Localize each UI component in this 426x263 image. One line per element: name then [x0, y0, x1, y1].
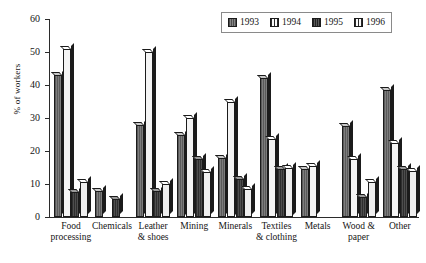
x-label-line2: processing — [36, 232, 106, 243]
bar-cap — [150, 188, 161, 191]
x-label-line2: paper — [324, 232, 394, 243]
bar-cap — [77, 179, 88, 182]
bar-cap — [224, 99, 235, 102]
y-tick — [45, 19, 49, 20]
bar — [350, 159, 358, 217]
bar-face — [383, 90, 391, 217]
y-tick — [45, 118, 49, 119]
bar-side — [170, 178, 173, 214]
bar — [153, 191, 161, 217]
bar — [71, 192, 79, 217]
bar-face — [400, 169, 408, 217]
bar-face — [80, 182, 88, 217]
bar — [285, 168, 293, 218]
bar-cap — [183, 115, 194, 118]
bar-face — [309, 166, 317, 217]
series-1993-swatch — [228, 18, 237, 27]
bar-group — [342, 19, 376, 217]
bar-side — [211, 166, 214, 214]
chart-legend: 1993 1994 1995 1996 — [221, 12, 392, 33]
bar-face — [359, 197, 367, 217]
bar-cap — [68, 189, 79, 192]
bar-cap — [174, 132, 185, 135]
bar — [195, 159, 203, 217]
bar-group — [301, 19, 335, 217]
series-1996-swatch — [354, 18, 363, 27]
y-axis-line — [49, 19, 50, 218]
bar — [186, 118, 194, 217]
bar — [400, 169, 408, 217]
bar-group — [383, 19, 417, 217]
legend-item-1993: 1993 — [228, 18, 259, 28]
bar-face — [186, 118, 194, 217]
x-label-line2: & clothing — [242, 232, 312, 243]
bar-face — [350, 159, 358, 217]
bar — [80, 182, 88, 217]
bar — [359, 197, 367, 217]
bar-face — [153, 191, 161, 217]
bar-face — [260, 78, 268, 217]
bar-cap — [339, 123, 350, 126]
bar-face — [145, 52, 153, 217]
bar-face — [71, 192, 79, 217]
bar — [383, 90, 391, 217]
bar — [260, 78, 268, 217]
bar-face — [285, 168, 293, 218]
bar — [218, 158, 226, 217]
bar — [301, 169, 309, 217]
bar-face — [95, 191, 103, 217]
bar-side — [376, 176, 379, 214]
bar-group — [177, 19, 211, 217]
bar-face — [136, 125, 144, 217]
bar-face — [162, 184, 170, 217]
bar-cap — [298, 166, 309, 169]
bar-face — [301, 169, 309, 217]
legend-item-1996: 1996 — [354, 18, 385, 28]
bar-cap — [142, 49, 153, 52]
bar-face — [277, 169, 285, 217]
bar-cap — [365, 179, 376, 182]
bar-face — [236, 179, 244, 217]
bar — [203, 172, 211, 217]
bar-cap — [92, 188, 103, 191]
bar — [162, 184, 170, 217]
bar-face — [391, 143, 399, 217]
legend-label-1993: 1993 — [240, 18, 259, 28]
bar-side — [317, 160, 320, 214]
bar-face — [268, 139, 276, 217]
bar-side — [252, 183, 255, 214]
bar-side — [417, 165, 420, 214]
series-1994-swatch — [270, 18, 279, 27]
bar-cap — [282, 165, 293, 168]
bar-cap — [257, 75, 268, 78]
y-tick-label: 40 — [12, 80, 40, 90]
bar-face — [195, 159, 203, 217]
bar-side — [120, 193, 123, 214]
legend-label-1996: 1996 — [366, 18, 385, 28]
bar-group — [136, 19, 170, 217]
bar-side — [88, 176, 91, 214]
bar — [368, 182, 376, 217]
bar — [63, 49, 71, 217]
bar-cap — [133, 122, 144, 125]
bar — [54, 75, 62, 217]
bar-cap — [380, 87, 391, 90]
bar-cap — [306, 163, 317, 166]
bar-group — [218, 19, 252, 217]
legend-item-1994: 1994 — [270, 18, 301, 28]
bar-face — [342, 126, 350, 217]
bar-cap — [51, 72, 62, 75]
bar-group — [260, 19, 294, 217]
legend-label-1994: 1994 — [282, 18, 301, 28]
bar — [227, 102, 235, 218]
bar — [277, 169, 285, 217]
x-label-line2: & shoes — [118, 232, 188, 243]
bar — [342, 126, 350, 217]
bar-face — [203, 172, 211, 217]
y-tick — [45, 184, 49, 185]
bar-side — [103, 185, 106, 214]
bar-face — [63, 49, 71, 217]
bar-face — [54, 75, 62, 217]
bar — [391, 143, 399, 217]
bar — [95, 191, 103, 217]
